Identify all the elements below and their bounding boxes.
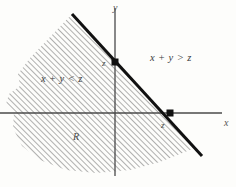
region-R-hatch bbox=[6, 10, 210, 173]
y-axis-label: y bbox=[113, 2, 117, 13]
x-intercept-label: z bbox=[161, 120, 165, 130]
diagram-canvas bbox=[0, 0, 236, 187]
region-label: R bbox=[73, 131, 79, 142]
label-x-plus-y-greater-than-z: x + y > z bbox=[150, 52, 192, 63]
half-plane-diagram: y x x + y > z x + y < z z z R bbox=[0, 0, 236, 187]
label-x-plus-y-less-than-z: x + y < z bbox=[41, 73, 83, 84]
x-axis-label: x bbox=[224, 117, 228, 128]
y-intercept-marker bbox=[112, 59, 119, 66]
y-intercept-label: z bbox=[102, 58, 106, 68]
x-intercept-marker bbox=[167, 110, 174, 117]
